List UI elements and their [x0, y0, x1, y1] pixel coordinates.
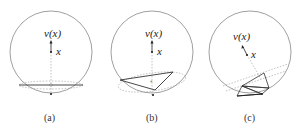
label-x: x	[156, 45, 162, 57]
dashed-plane-line	[226, 71, 286, 91]
point-center	[50, 84, 52, 86]
arrow-head-icon	[50, 40, 53, 44]
face-centroid-mark: *	[150, 79, 153, 85]
label-vx: v(x)	[44, 27, 61, 40]
triangle-face	[120, 72, 173, 90]
point-bottom	[261, 93, 263, 95]
point-x	[246, 54, 248, 56]
dashed-plane-line	[223, 64, 288, 86]
point-bottom	[152, 94, 154, 96]
vector-arrow	[243, 47, 247, 55]
point-x	[50, 51, 52, 53]
label-vx: v(x)	[145, 27, 162, 40]
caption-b: (b)	[146, 112, 158, 124]
panel-b: * v(x) x (b)	[111, 11, 193, 124]
caption-c: (c)	[244, 112, 255, 124]
point-x	[151, 51, 153, 53]
caption-a: (a)	[44, 112, 55, 124]
arrow-head-icon	[151, 40, 154, 44]
panel-c: v(x) x (c)	[209, 11, 291, 124]
panel-a: v(x) x (a)	[10, 11, 92, 124]
label-x: x	[250, 48, 256, 60]
point-bottom	[50, 93, 52, 95]
patch-edge	[237, 94, 262, 96]
label-x: x	[55, 45, 61, 57]
label-vx: v(x)	[233, 30, 250, 43]
sphere-outline	[209, 11, 291, 93]
diagram-figure: v(x) x (a) * v(x) x (b)	[0, 0, 300, 130]
